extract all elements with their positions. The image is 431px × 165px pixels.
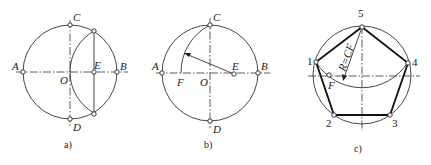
label-radius: R=CF: [335, 42, 356, 74]
label-b: B: [261, 60, 268, 72]
point-b: [115, 70, 119, 74]
label-4: 4: [412, 56, 418, 68]
panel-a: A B C D O E a): [11, 11, 128, 151]
label-f: F: [327, 79, 335, 91]
caption-a: a): [64, 139, 72, 151]
point-c: [208, 23, 212, 27]
point-a: [160, 71, 164, 75]
point-b: [256, 71, 260, 75]
point-f: [327, 73, 331, 77]
vertex-5: [360, 25, 364, 29]
label-e: E: [231, 60, 239, 72]
label-c: C: [73, 11, 81, 23]
vertex-4: [406, 61, 410, 65]
label-1: 1: [307, 55, 313, 67]
point-c: [68, 23, 72, 27]
panel-c: 5 1 4 2 3 F R=CF c): [307, 7, 420, 155]
caption-b: b): [204, 139, 212, 151]
label-o: O: [60, 74, 68, 86]
label-e: E: [93, 59, 101, 71]
point-e: [232, 72, 236, 76]
intersection-top: [92, 29, 96, 33]
point-d: [208, 119, 212, 123]
label-f: F: [176, 76, 184, 88]
label-a: A: [151, 60, 159, 72]
label-d: D: [72, 121, 81, 133]
label-c: C: [213, 11, 221, 23]
pentagon-construction-figure: A B C D O E a) A B C D O E F b): [0, 0, 431, 165]
arrowhead-icon: [184, 53, 191, 57]
label-b: B: [120, 60, 127, 72]
vertex-1: [314, 60, 318, 64]
label-2: 2: [326, 117, 332, 129]
label-a: A: [11, 60, 19, 72]
label-5: 5: [358, 7, 364, 19]
point-a: [21, 70, 25, 74]
point-d: [68, 117, 72, 121]
label-o: O: [200, 76, 208, 88]
label-d: D: [212, 123, 221, 135]
vertex-2: [332, 113, 336, 117]
panel-b: A B C D O E F b): [151, 11, 270, 151]
figure-canvas: A B C D O E a) A B C D O E F b): [0, 0, 431, 165]
caption-c: c): [354, 143, 362, 155]
intersection-bottom: [92, 112, 96, 116]
radius-arrow-line: [186, 54, 234, 74]
label-3: 3: [392, 117, 398, 129]
arrowhead-icon: [342, 74, 347, 81]
